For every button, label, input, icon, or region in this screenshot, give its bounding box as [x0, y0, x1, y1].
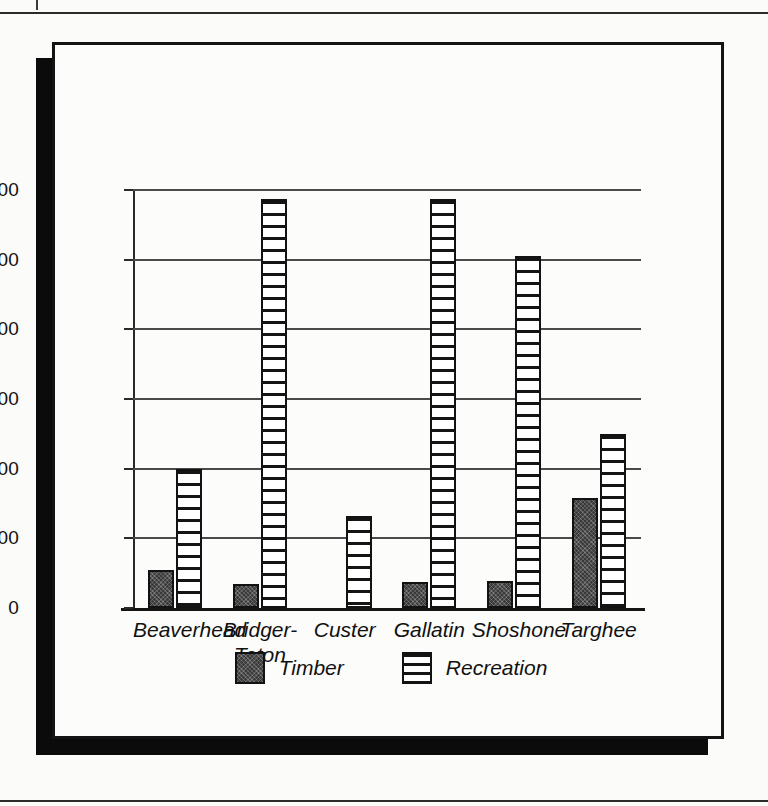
bar-timber [402, 582, 428, 608]
y-axis-tick [124, 537, 133, 539]
bar-recreation [261, 199, 287, 608]
category-label: Targhee [556, 618, 641, 643]
gridline [133, 259, 641, 261]
bar-group [572, 190, 626, 608]
y-axis-tick [124, 468, 133, 470]
y-axis-tick [124, 398, 133, 400]
x-axis-line [121, 608, 645, 611]
gridline [133, 468, 641, 470]
bar-group [487, 190, 541, 608]
page-top-rule [0, 12, 768, 14]
bar-group [318, 190, 372, 608]
figure-frame: 02004006008001,0001,200 BeaverheadBridge… [52, 42, 724, 739]
bar-timber [487, 581, 513, 608]
y-axis-tick-label: 400 [0, 458, 19, 480]
y-axis-tick-label: 0 [8, 597, 19, 619]
legend-swatch-recreation-icon [402, 652, 432, 684]
bar-timber [233, 584, 259, 608]
gridline [133, 398, 641, 400]
bar-recreation [176, 469, 202, 608]
y-axis-tick [124, 259, 133, 261]
category-label: Beaverhead [133, 618, 218, 643]
bar-recreation [600, 434, 626, 608]
scanned-page: 02004006008001,0001,200 BeaverheadBridge… [0, 0, 768, 806]
chart-legend: TimberRecreation [55, 652, 727, 684]
category-label: Shoshone [472, 618, 557, 643]
gridline [133, 328, 641, 330]
bar-recreation [430, 199, 456, 608]
y-axis-tick-label: 1,200 [0, 179, 19, 201]
bar-timber [572, 498, 598, 608]
y-axis-tick-label: 1,000 [0, 249, 19, 271]
category-label: Gallatin [387, 618, 472, 643]
legend-item: Timber [235, 652, 344, 684]
y-axis-tick-label: 200 [0, 527, 19, 549]
legend-label: Timber [279, 656, 344, 680]
y-axis-tick [124, 328, 133, 330]
plot-region: 02004006008001,0001,200 BeaverheadBridge… [133, 190, 641, 608]
y-axis-tick-label: 800 [0, 318, 19, 340]
y-axis-tick [124, 189, 133, 191]
legend-item: Recreation [402, 652, 548, 684]
chart-area: 02004006008001,0001,200 BeaverheadBridge… [55, 45, 727, 742]
legend-label: Recreation [446, 656, 548, 680]
bar-timber [148, 570, 174, 608]
bar-group [402, 190, 456, 608]
category-label: Custer [302, 618, 387, 643]
bar-group [148, 190, 202, 608]
page-bottom-rule [0, 800, 768, 802]
gridline [133, 537, 641, 539]
bar-recreation [346, 516, 372, 608]
gridline [133, 189, 641, 191]
legend-swatch-timber-icon [235, 652, 265, 684]
y-axis-tick [124, 607, 133, 609]
bar-group [233, 190, 287, 608]
y-axis-tick-label: 600 [0, 388, 19, 410]
page-top-tick [36, 0, 38, 10]
y-axis-line [133, 190, 135, 610]
bar-recreation [515, 256, 541, 608]
